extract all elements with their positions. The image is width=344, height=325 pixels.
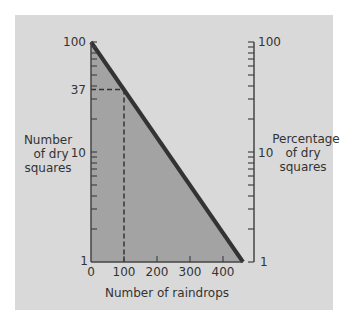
y-right-title-line2: of dry <box>285 146 320 160</box>
raindrops-log-chart: 0 100 200 300 400 Number of raindrops 10… <box>0 0 344 325</box>
right-axis-ticks <box>248 42 254 262</box>
y-left-title-line2: of dry <box>33 147 68 161</box>
y-right-title-line3: squares <box>279 160 326 174</box>
x-tick-0: 0 <box>87 265 95 279</box>
left-tick-37: 37 <box>71 83 86 97</box>
right-tick-10: 10 <box>258 146 273 160</box>
x-axis-title: Number of raindrops <box>105 286 229 300</box>
right-tick-1: 1 <box>260 255 268 269</box>
right-tick-100: 100 <box>258 35 281 49</box>
y-left-title-line1: Number <box>24 133 72 147</box>
x-tick-400: 400 <box>212 265 235 279</box>
left-tick-1: 1 <box>80 254 88 268</box>
x-tick-100: 100 <box>113 265 136 279</box>
x-tick-300: 300 <box>179 265 202 279</box>
x-tick-200: 200 <box>146 265 169 279</box>
y-left-title-line3: squares <box>24 161 71 175</box>
y-right-title-line1: Percentage <box>272 132 340 146</box>
left-tick-10: 10 <box>71 146 86 160</box>
left-tick-100: 100 <box>63 35 86 49</box>
